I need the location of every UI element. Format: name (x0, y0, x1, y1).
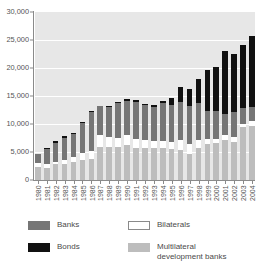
x-tick-mark (91, 181, 92, 184)
y-tick-mark (30, 180, 34, 181)
y-tick-mark (30, 124, 34, 125)
x-tick-mark (38, 181, 39, 184)
bar-segment (240, 108, 246, 124)
x-tick-mark (145, 181, 146, 184)
bar-segment (178, 102, 184, 140)
x-tick-label: 1982 (53, 185, 59, 215)
bar-segment (71, 162, 77, 180)
bar-segment (240, 127, 246, 180)
bar-segment (196, 148, 202, 180)
bar-column[interactable] (151, 12, 157, 180)
bar-segment (115, 138, 121, 147)
x-tick-mark (234, 181, 235, 184)
x-tick-label: 2003 (240, 185, 246, 215)
bar-segment (89, 159, 95, 180)
bar-column[interactable] (97, 12, 103, 180)
bar-segment (205, 111, 211, 140)
bar-segment (62, 164, 68, 180)
bar-segment (142, 140, 148, 148)
y-tick-label: 15,000 (6, 92, 29, 100)
x-tick-mark (154, 181, 155, 184)
bar-column[interactable] (142, 12, 148, 180)
y-tick-mark (30, 12, 34, 13)
bar-segment (62, 138, 68, 160)
x-tick-mark (56, 181, 57, 184)
x-tick-mark (208, 181, 209, 184)
bar-segment (213, 67, 219, 111)
bar-column[interactable] (169, 12, 175, 180)
y-tick-label: 25,000 (6, 36, 29, 44)
x-tick-label: 2002 (231, 185, 237, 215)
x-tick-label: 1983 (62, 185, 68, 215)
y-tick-label: 10,000 (6, 120, 29, 128)
bar-segment (80, 160, 86, 180)
x-tick-mark (190, 181, 191, 184)
bar-segment (178, 140, 184, 150)
x-tick-label: 1989 (115, 185, 121, 215)
bar-column[interactable] (249, 12, 255, 180)
bar-column[interactable] (213, 12, 219, 180)
x-tick-label: 1991 (133, 185, 139, 215)
bar-column[interactable] (80, 12, 86, 180)
bar-segment (44, 149, 50, 165)
bar-column[interactable] (196, 12, 202, 180)
bar-segment (196, 103, 202, 140)
legend-item-multilateral-development-banks: Multilateral development banks (128, 242, 226, 261)
bar-segment (106, 147, 112, 180)
x-tick-label: 1999 (205, 185, 211, 215)
bar-column[interactable] (35, 12, 41, 180)
bar-column[interactable] (178, 12, 184, 180)
x-tick-label: 1987 (97, 185, 103, 215)
x-tick-label: 1984 (71, 185, 77, 215)
y-axis: 05,00010,00015,00020,00025,00030,000 (0, 0, 33, 186)
bar-segment (187, 154, 193, 180)
bar-segment (80, 123, 86, 152)
bar-column[interactable] (222, 12, 228, 180)
bar-column[interactable] (240, 12, 246, 180)
y-tick-label: 20,000 (6, 64, 29, 72)
x-tick-label: 1992 (142, 185, 148, 215)
x-tick-label: 1981 (44, 185, 50, 215)
bar-column[interactable] (44, 12, 50, 180)
bars-layer (35, 12, 255, 180)
x-axis-labels: 1980198119821983198419851986198719881989… (35, 185, 255, 215)
bar-column[interactable] (133, 12, 139, 180)
bar-column[interactable] (205, 12, 211, 180)
y-tick-label: 0 (25, 176, 29, 184)
legend-swatch-bilaterals (128, 221, 150, 230)
x-tick-mark (127, 181, 128, 184)
bar-column[interactable] (53, 12, 59, 180)
bar-column[interactable] (115, 12, 121, 180)
bar-column[interactable] (124, 12, 130, 180)
bar-column[interactable] (89, 12, 95, 180)
bar-column[interactable] (106, 12, 112, 180)
y-tick-label: 5,000 (11, 148, 30, 156)
stacked-bar-chart: 05,00010,00015,00020,00025,00030,000 198… (0, 0, 258, 266)
bar-column[interactable] (62, 12, 68, 180)
x-tick-label: 2004 (249, 185, 255, 215)
bar-segment (124, 145, 130, 180)
y-tick-mark (30, 96, 34, 97)
bar-segment (106, 137, 112, 147)
x-tick-label: 1996 (178, 185, 184, 215)
legend-label-bonds: Bonds (57, 242, 80, 252)
bar-segment (169, 105, 175, 142)
y-tick-mark (30, 152, 34, 153)
bar-column[interactable] (231, 12, 237, 180)
bar-column[interactable] (160, 12, 166, 180)
x-tick-label: 1995 (169, 185, 175, 215)
bar-column[interactable] (187, 12, 193, 180)
bar-segment (89, 151, 95, 158)
plot-region: 05,00010,00015,00020,00025,00030,000 198… (0, 0, 258, 215)
x-tick-mark (74, 181, 75, 184)
x-tick-mark (100, 181, 101, 184)
x-tick-label: 1998 (196, 185, 202, 215)
bar-segment (97, 135, 103, 147)
bar-column[interactable] (71, 12, 77, 180)
bar-segment (196, 79, 202, 103)
legend-item-bilaterals: Bilaterals (128, 220, 190, 230)
bar-segment (133, 102, 139, 139)
bar-segment (142, 105, 148, 140)
bar-segment (213, 111, 219, 139)
x-tick-label: 1985 (80, 185, 86, 215)
